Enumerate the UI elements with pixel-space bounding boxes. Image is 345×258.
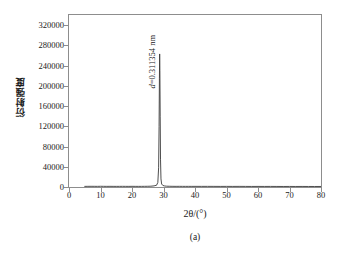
x-axis-tick-label: 0 — [67, 191, 71, 200]
y-axis-tick — [64, 147, 69, 148]
x-axis-title-text: 2θ/(°) — [183, 208, 206, 219]
y-axis-title-text: 衍射强度 — [14, 77, 28, 117]
y-axis-tick — [64, 86, 69, 87]
x-axis-tick-label: 80 — [317, 191, 326, 200]
y-axis-tick-label: 80000 — [6, 142, 64, 151]
d-spacing-annotation-text: d=0.311354 nm — [148, 35, 157, 89]
y-axis-tick — [64, 45, 69, 46]
y-axis-tick-label: 320000 — [6, 21, 64, 30]
x-axis-tick-label: 20 — [128, 191, 137, 200]
y-axis-tick — [64, 66, 69, 67]
d-value: =0.311354 nm — [147, 35, 157, 84]
y-axis-tick — [64, 106, 69, 107]
x-axis-tick-label: 10 — [96, 191, 105, 200]
plot-inner — [69, 15, 321, 187]
d-spacing-annotation: d=0.311354 nm — [145, 35, 159, 111]
y-axis-tick-label: 40000 — [6, 163, 64, 172]
x-axis-tick-label: 60 — [254, 191, 263, 200]
y-axis-tick-label: 0 — [6, 183, 64, 192]
y-axis-title: 衍射强度 — [14, 55, 28, 139]
x-axis-tick-label: 70 — [285, 191, 294, 200]
y-axis-tick — [64, 167, 69, 168]
plot-area — [68, 14, 322, 188]
y-axis-tick — [64, 126, 69, 127]
x-axis-tick-label: 30 — [159, 191, 168, 200]
series-polyline — [85, 54, 321, 187]
y-axis-tick-labels: 0400008000012000016000020000024000028000… — [0, 14, 64, 188]
x-axis-title: 2θ/(°) — [68, 208, 322, 219]
x-axis-tick-label: 40 — [191, 191, 200, 200]
x-axis-tick-labels: 01020304050607080 — [68, 191, 322, 205]
d-symbol: d — [147, 85, 157, 89]
figure-caption: (a) — [68, 232, 322, 242]
xrd-figure: 0400008000012000016000020000024000028000… — [0, 0, 345, 258]
x-axis-tick-label: 50 — [222, 191, 231, 200]
diffraction-curve — [69, 15, 321, 187]
y-axis-tick-label: 280000 — [6, 41, 64, 50]
y-axis-tick — [64, 25, 69, 26]
